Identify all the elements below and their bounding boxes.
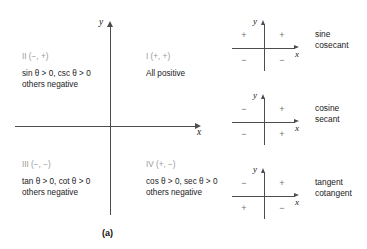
x-axis-line	[15, 126, 196, 127]
sign-quadrant-3: −	[239, 130, 249, 139]
quadrant-4-body: cos θ > 0, sec θ > 0 others negative	[146, 177, 217, 198]
quadrant-3-line-2: others negative	[22, 188, 90, 199]
quadrant-1-body: All positive	[146, 69, 185, 80]
y-axis-line	[110, 26, 111, 215]
sign-quadrant-1: +	[277, 179, 287, 188]
function-name-label: tangent cotangent	[315, 177, 352, 199]
quadrant-2-body: sin θ > 0, csc θ > 0 others negative	[22, 69, 91, 90]
y-axis-arrow-icon	[261, 94, 265, 99]
quadrant-3-line-1: tan θ > 0, cot θ > 0	[22, 177, 90, 188]
y-axis-line	[264, 172, 265, 219]
quadrant-2-header: II (−, +)	[22, 52, 91, 61]
quadrant-2-block: II (−, +) sin θ > 0, csc θ > 0 others ne…	[22, 52, 91, 90]
quadrant-4-line-1: cos θ > 0, sec θ > 0	[146, 177, 217, 188]
quadrant-2-line-2: others negative	[22, 80, 91, 91]
panel-a-caption: (a)	[102, 228, 113, 238]
sign-quadrant-4: −	[277, 56, 287, 65]
quadrant-2-line-1: sin θ > 0, csc θ > 0	[22, 69, 91, 80]
function-name-line-1: sine	[315, 29, 349, 40]
y-axis-line	[264, 98, 265, 145]
sign-quadrant-2: −	[239, 105, 249, 114]
sign-quadrant-4: +	[277, 130, 287, 139]
quadrant-4-block: IV (+, −) cos θ > 0, sec θ > 0 others ne…	[146, 160, 217, 198]
x-axis-label: x	[295, 49, 299, 59]
y-axis-line	[264, 24, 265, 71]
panel-b-function-signs: y x + + − − sine cosecant y x − + − + co…	[222, 0, 367, 249]
sign-quadrant-3: −	[239, 56, 249, 65]
y-axis-arrow-icon	[261, 168, 265, 173]
quadrant-1-block: I (+, +) All positive	[146, 52, 185, 80]
y-axis-label: y	[253, 16, 257, 26]
y-axis-arrow-icon	[261, 20, 265, 25]
panel-a-quadrant-signs: x y I (+, +) All positive II (−, +) sin …	[0, 0, 222, 249]
function-name-label: cosine secant	[315, 103, 340, 125]
quadrant-1-header: I (+, +)	[146, 52, 185, 61]
function-name-label: sine cosecant	[315, 29, 349, 51]
y-axis-label: y	[253, 90, 257, 100]
y-axis-arrow-icon	[107, 21, 113, 27]
x-axis-label: x	[295, 197, 299, 207]
mini-diagram-tangent-cotangent: y x − + + − tangent cotangent	[222, 160, 367, 232]
trig-sign-figure: x y I (+, +) All positive II (−, +) sin …	[0, 0, 367, 249]
mini-diagram-sine-cosecant: y x + + − − sine cosecant	[222, 12, 367, 84]
y-axis-label: y	[99, 17, 103, 27]
sign-quadrant-4: −	[277, 204, 287, 213]
quadrant-4-line-2: others negative	[146, 188, 217, 199]
sign-quadrant-2: +	[239, 31, 249, 40]
y-axis-label: y	[253, 164, 257, 174]
quadrant-3-header: III (−, −)	[22, 160, 90, 169]
function-name-line-2: cotangent	[315, 188, 352, 199]
x-axis-label: x	[197, 127, 201, 137]
function-name-line-2: cosecant	[315, 40, 349, 51]
function-name-line-1: cosine	[315, 103, 340, 114]
function-name-line-2: secant	[315, 114, 340, 125]
quadrant-3-block: III (−, −) tan θ > 0, cot θ > 0 others n…	[22, 160, 90, 198]
sign-quadrant-3: +	[239, 204, 249, 213]
sign-quadrant-1: +	[277, 105, 287, 114]
quadrant-4-header: IV (+, −)	[146, 160, 217, 169]
quadrant-1-line-1: All positive	[146, 69, 185, 80]
quadrant-3-body: tan θ > 0, cot θ > 0 others negative	[22, 177, 90, 198]
sign-quadrant-1: +	[277, 31, 287, 40]
x-axis-label: x	[295, 123, 299, 133]
function-name-line-1: tangent	[315, 177, 352, 188]
sign-quadrant-2: −	[239, 179, 249, 188]
mini-diagram-cosine-secant: y x − + − + cosine secant	[222, 86, 367, 158]
